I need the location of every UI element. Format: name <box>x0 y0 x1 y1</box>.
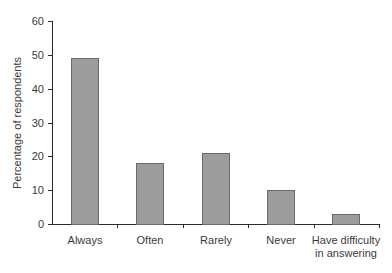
x-tick <box>379 224 380 228</box>
bar-chart: Percentage of respondents 0102030405060A… <box>0 0 392 273</box>
y-tick-label: 10 <box>14 184 44 196</box>
y-tick-label: 30 <box>14 117 44 129</box>
bar-often <box>136 163 164 225</box>
y-tick <box>48 156 52 157</box>
x-tick <box>183 224 184 228</box>
bar-have-difficulty-in-answering <box>332 214 360 225</box>
bar-rarely <box>202 153 230 225</box>
y-axis-line <box>52 21 53 225</box>
y-tick <box>48 190 52 191</box>
bar-always <box>71 58 99 225</box>
y-tick-label: 60 <box>14 15 44 27</box>
y-tick <box>48 21 52 22</box>
x-tick <box>248 224 249 228</box>
x-category-label: Have difficulty <box>306 234 386 246</box>
y-tick <box>48 89 52 90</box>
bar-never <box>267 190 295 225</box>
y-tick-label: 50 <box>14 49 44 61</box>
y-tick <box>48 55 52 56</box>
y-tick-label: 20 <box>14 150 44 162</box>
y-tick-label: 0 <box>14 218 44 230</box>
y-tick <box>48 123 52 124</box>
x-category-label: in answering <box>306 247 386 259</box>
x-tick <box>117 224 118 228</box>
y-tick-label: 40 <box>14 83 44 95</box>
x-tick <box>314 224 315 228</box>
y-tick <box>48 224 52 225</box>
